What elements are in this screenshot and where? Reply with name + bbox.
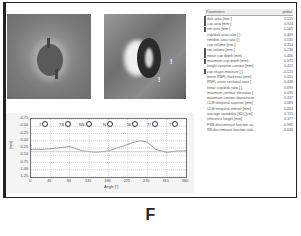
- parameter-label: cup area [mm²]: [207, 22, 231, 26]
- vessel: [55, 69, 58, 79]
- parameter-value: 0.531: [284, 38, 293, 42]
- x-tick-label: 225: [124, 179, 130, 183]
- parameter-label: linear cup/disk ratio [ ]: [207, 86, 242, 90]
- table-row: RB discriminant function valu-0.046: [205, 127, 293, 132]
- parameter-value: 0.063: [284, 107, 293, 111]
- parameter-label: reference height [mm]: [207, 117, 242, 121]
- x-tick-label: 90: [67, 179, 71, 183]
- parameter-label: cup shape measure [ ]: [207, 70, 243, 74]
- sector-name: N: [103, 122, 106, 127]
- parameter-value: -0.985: [283, 123, 293, 127]
- sector-name: TI: [147, 122, 151, 127]
- y-axis-title: [mm]: [9, 141, 13, 149]
- clock-sector-icon: [65, 121, 71, 127]
- parameter-label: mean cup depth [mm]: [207, 54, 242, 58]
- plot-svg: [31, 119, 186, 177]
- parameter-label: rim volume [mm³]: [207, 48, 235, 52]
- cup-center: [145, 48, 153, 68]
- parameter-value: 0.469: [284, 33, 293, 37]
- sector-name: T: [39, 122, 41, 127]
- figure-label: F: [0, 206, 301, 224]
- parameter-value: 0.354: [284, 43, 293, 47]
- parameter-label: RNFL cross sectional area [: [207, 80, 251, 84]
- parameter-value: 0.083: [284, 101, 293, 105]
- parameter-value: 0.236: [284, 48, 293, 52]
- y-tick-label: 1.00: [14, 167, 28, 171]
- marker-icon: !: [170, 58, 172, 65]
- parameter-label: RB discriminant function valu: [207, 128, 253, 132]
- sector-label: TS: [59, 121, 71, 127]
- parameter-value: -0.125: [283, 70, 293, 74]
- parameter-value: 0.406: [284, 54, 293, 58]
- sector-name: TS: [59, 122, 64, 127]
- sector-label: TI: [147, 121, 158, 127]
- parameter-value: 0.971: [284, 59, 293, 63]
- parameter-value: 0.115: [284, 112, 293, 116]
- contour-chart: [mm] -0.75-0.50-0.250.000.250.500.751.00…: [6, 113, 194, 193]
- y-tick-label: 0.00: [14, 138, 28, 142]
- clock-sector-icon: [172, 121, 178, 127]
- parameter-label: maximum contour depression: [207, 96, 254, 100]
- parameter-value: 0.095: [284, 91, 293, 95]
- x-tick-label: 0: [29, 179, 31, 183]
- topography-image: ! !: [104, 14, 186, 99]
- parameter-value: 0.446: [284, 80, 293, 84]
- sector-label: T: [169, 121, 178, 127]
- clock-sector-icon: [42, 121, 48, 127]
- parameter-label: disk area [mm²]: [207, 17, 232, 21]
- parameter-label: cup volume [mm³]: [207, 43, 236, 47]
- y-tick-label: 0.25: [14, 145, 28, 149]
- y-tick-label: 0.50: [14, 152, 28, 156]
- y-tick-label: -0.50: [14, 123, 28, 127]
- parameter-label: FSM discriminant function va: [207, 123, 253, 127]
- sector-label: NS: [79, 121, 92, 127]
- parameter-label: rim area [mm²]: [207, 27, 230, 31]
- sector-name: T: [169, 122, 171, 127]
- clock-sector-icon: [107, 121, 113, 127]
- parameter-label: mean RNFL thickness [mm]: [207, 75, 251, 79]
- parameter-value: 0.377: [284, 117, 293, 121]
- table-header: Parameters global: [205, 9, 293, 16]
- y-tick-label: 0.75: [14, 160, 28, 164]
- x-tick-label: 315: [162, 179, 168, 183]
- parameter-value: -0.046: [283, 128, 293, 132]
- vessel: [47, 38, 50, 48]
- parameter-label: cup/disk area ratio [ ]: [207, 33, 240, 37]
- reflectance-image: [7, 14, 91, 99]
- clock-sector-icon: [86, 121, 92, 127]
- parameter-label: rim/disk area ratio [ ]: [207, 38, 240, 42]
- sector-name: NI: [127, 122, 131, 127]
- sector-label: N: [103, 121, 113, 127]
- optic-disc: [37, 44, 63, 76]
- parameter-value: 0.565: [284, 27, 293, 31]
- x-tick-label: 180: [104, 179, 110, 183]
- y-tick-label: 1.25: [14, 174, 28, 178]
- x-tick-label: 360: [182, 179, 188, 183]
- y-tick-label: -0.25: [14, 131, 28, 135]
- parameter-label: CLM temporal-inferior [mm]: [207, 107, 251, 111]
- clock-sector-icon: [132, 121, 138, 127]
- parameter-label: maximum contour elevation [: [207, 91, 253, 95]
- marker-icon: !: [158, 76, 160, 83]
- clock-sector-icon: [152, 121, 158, 127]
- parameter-label: CLM temporal-superior [mm]: [207, 101, 253, 105]
- parameter-value: 0.699: [284, 86, 293, 90]
- x-tick-label: 270: [143, 179, 149, 183]
- parameters-table: Parameters global disk area [mm²]1.559cu…: [205, 9, 293, 133]
- parameter-value: 0.421: [284, 64, 293, 68]
- parameter-label: average variability (SD) [µm]: [207, 112, 252, 116]
- parameter-value: 0.437: [284, 96, 293, 100]
- plot-area: TTSNSNNITIT: [30, 118, 187, 178]
- header-parameters: Parameters: [206, 10, 225, 14]
- sector-label: T: [39, 121, 48, 127]
- sector-label: NI: [127, 121, 138, 127]
- x-tick-label: 135: [85, 179, 91, 183]
- x-tick-label: 45: [47, 179, 51, 183]
- parameter-label: height variation contour [mm]: [207, 64, 253, 68]
- parameter-value: 0.051: [284, 75, 293, 79]
- x-axis-title: Angle [°]: [104, 185, 118, 189]
- sector-name: NS: [79, 122, 85, 127]
- parameter-value: 1.559: [284, 17, 293, 21]
- parameter-label: maximum cup depth [mm]: [207, 59, 248, 63]
- header-global: global: [282, 10, 292, 14]
